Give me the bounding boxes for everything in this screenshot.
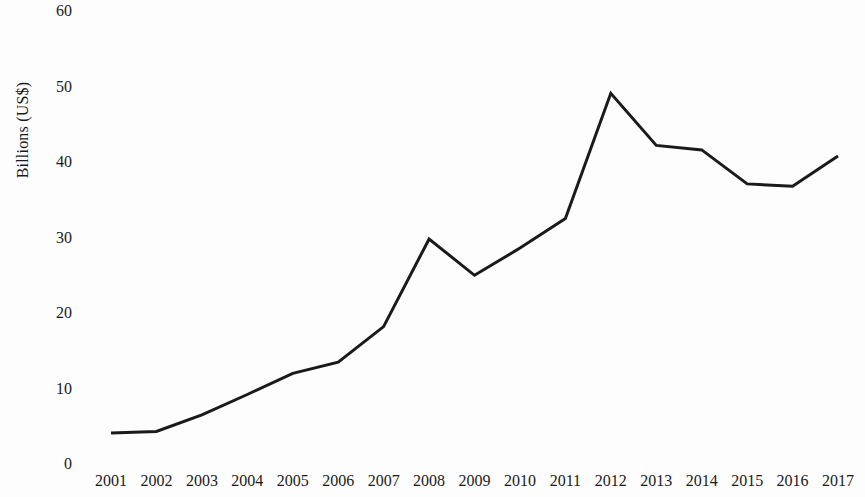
line-chart: Billions (US$) 0102030405060 20012002200… (0, 0, 865, 497)
data-series-line (111, 93, 838, 433)
plot-area (0, 0, 865, 497)
